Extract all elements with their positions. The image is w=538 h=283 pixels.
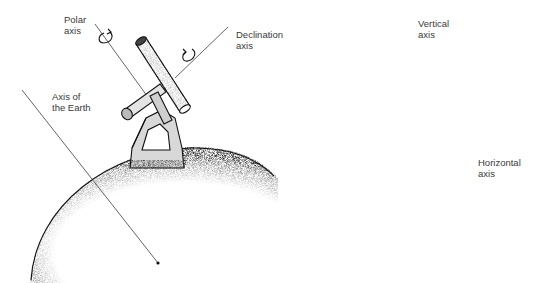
equatorial-panel	[22, 24, 278, 283]
horizontal-axis-label: Horizontal axis	[478, 158, 521, 179]
polar-axis-line	[95, 24, 150, 100]
declination-rotation-arrow-icon	[183, 49, 195, 61]
mount-comparison-diagram: Polar axis Declination axis Axis of the …	[0, 0, 538, 283]
polar-rotation-arrow-icon	[99, 29, 112, 43]
vertical-axis-label: Vertical axis	[418, 19, 449, 40]
declination-axis-line	[175, 27, 228, 78]
earth-center-dot	[156, 261, 159, 264]
earth-axis-label: Axis of the Earth	[52, 92, 91, 113]
declination-axis-label: Declination axis	[236, 30, 283, 51]
polar-axis-label: Polar axis	[64, 15, 86, 36]
equatorial-pedestal	[130, 110, 186, 168]
